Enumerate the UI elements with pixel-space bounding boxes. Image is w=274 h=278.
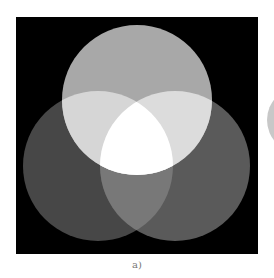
partial-circle-right xyxy=(267,87,274,153)
figure-caption: a) xyxy=(0,259,274,270)
venn-figure xyxy=(0,0,274,278)
